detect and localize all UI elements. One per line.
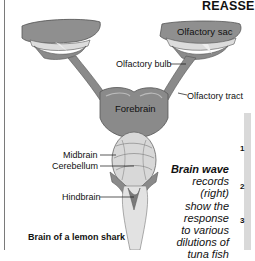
label-cerebellum: Cerebellum [52, 161, 98, 171]
brain-wave-records-panel [244, 113, 251, 250]
sidebar-line: tuna fish [171, 248, 229, 260]
record-number: 3 [240, 216, 244, 225]
label-forebrain: Forebrain [115, 104, 156, 114]
sidebar-line: show the [171, 200, 229, 212]
brain-wave-title: Brain wave [171, 163, 229, 175]
label-midbrain: Midbrain [63, 150, 98, 160]
sidebar-line: (right) [171, 187, 229, 199]
left-olfactory-sac [22, 19, 100, 59]
figure-caption: Brain of a lemon shark [28, 232, 125, 242]
record-number: 1 [240, 144, 244, 153]
label-olfactory-sac: Olfactory sac [177, 27, 232, 37]
sidebar-line: response [171, 212, 229, 224]
brain-wave-sidebar-text: Brain wave records (right) show the resp… [171, 163, 229, 261]
label-olfactory-bulb: Olfactory bulb [116, 59, 172, 69]
sidebar-line: records [171, 175, 229, 187]
record-number: 2 [240, 182, 244, 191]
sidebar-line: dilutions of [171, 236, 229, 248]
sidebar-line: to various [171, 224, 229, 236]
label-olfactory-tract: Olfactory tract [187, 91, 243, 101]
label-hindbrain: Hindbrain [62, 192, 101, 202]
